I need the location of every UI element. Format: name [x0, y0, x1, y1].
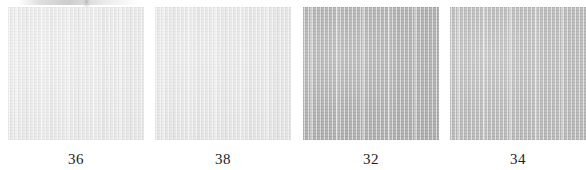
swatch-cell-1: 38: [155, 7, 291, 140]
swatch-label-2: 32: [303, 148, 439, 170]
swatch-label-0: 36: [8, 148, 144, 170]
swatch-shading-0: [8, 7, 144, 140]
swatch-tile-0[interactable]: [8, 7, 144, 140]
swatch-shading-1: [155, 7, 291, 140]
swatch-shading-3: [450, 7, 586, 140]
swatch-label-1: 38: [155, 148, 291, 170]
swatch-tile-1[interactable]: [155, 7, 291, 140]
swatch-label-3: 34: [450, 148, 586, 170]
swatch-tile-3[interactable]: [450, 7, 586, 140]
swatch-shading-2: [303, 7, 439, 140]
swatch-cell-3: 34: [450, 7, 586, 140]
swatch-cell-2: 32: [303, 7, 439, 140]
swatch-cell-0: 36: [8, 7, 144, 140]
swatch-tile-2[interactable]: [303, 7, 439, 140]
